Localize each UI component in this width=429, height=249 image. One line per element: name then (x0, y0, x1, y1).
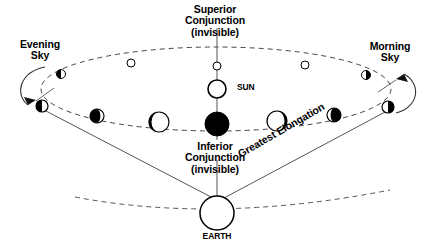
evening-sky-label: Evening Sky (6, 39, 74, 62)
planet-greatest-western-elongation (382, 101, 394, 113)
planet-near-2 (90, 109, 104, 123)
planet-far-2 (127, 59, 135, 67)
planet-near-6 (327, 108, 341, 122)
evening-sky-tick (36, 88, 54, 101)
diagram-canvas: Superior Conjunction (invisible) Inferio… (0, 0, 429, 249)
planet-inferior-conjunction (205, 112, 229, 136)
sun-label: SUN (237, 83, 277, 92)
planet-far-1 (57, 70, 66, 79)
planet-far-5 (362, 71, 371, 80)
planet-near-3 (149, 112, 169, 132)
sun-body (208, 80, 226, 98)
planet-far-4 (301, 61, 309, 69)
earth-body (200, 196, 234, 230)
morning-sky-label: Morning Sky (356, 41, 424, 64)
superior-conjunction-label: Superior Conjunction (invisible) (149, 4, 281, 38)
morning-sky-tick (378, 80, 396, 92)
planet-greatest-eastern-elongation (36, 100, 48, 112)
earth-label: EARTH (192, 232, 242, 241)
planet-superior-conjunction (213, 62, 221, 70)
